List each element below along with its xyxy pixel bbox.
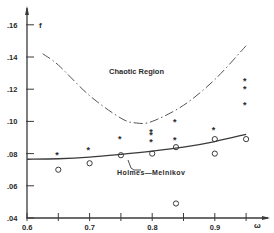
y-tick-label: .16 — [7, 21, 17, 30]
y-axis-label: f — [39, 21, 42, 30]
x-tick-label: 0.9 — [210, 223, 220, 232]
circle-marker-icon — [173, 201, 178, 206]
y-tick-label: .08 — [7, 150, 17, 159]
circle-marker-icon — [244, 137, 249, 142]
star-marker-icon: * — [173, 117, 177, 127]
y-tick-label: .04 — [7, 214, 18, 223]
holmes-melnikov-label: Holmes—Melnikov — [117, 169, 185, 176]
star-marker-icon: * — [173, 135, 177, 145]
chart-svg: .04.06.08.10.12.14.160.60.70.80.9fω*****… — [0, 0, 274, 233]
circle-marker-icon — [212, 151, 217, 156]
star-marker-icon: * — [87, 145, 91, 155]
star-marker-icon: * — [243, 100, 247, 110]
x-tick-label: 0.6 — [22, 223, 32, 232]
x-axis-label: ω — [254, 221, 261, 230]
circle-marker-icon — [87, 161, 92, 166]
circle-marker-icon — [56, 167, 61, 172]
circle-marker-icon — [173, 145, 178, 150]
y-tick-label: .12 — [7, 85, 17, 94]
star-marker-icon: * — [118, 134, 122, 144]
x-axis-arrow-icon — [262, 216, 270, 220]
x-tick-label: 0.7 — [85, 223, 95, 232]
chaotic-region-label: Chaotic Region — [109, 67, 164, 76]
y-axis-arrow-icon — [25, 6, 29, 15]
star-marker-icon: * — [243, 84, 247, 94]
x-tick-label: 0.8 — [147, 223, 157, 232]
chaotic-boundary-curve — [43, 46, 246, 124]
y-tick-label: .14 — [7, 53, 18, 62]
star-marker-icon: * — [149, 127, 153, 137]
star-marker-icon: * — [212, 125, 216, 135]
chart: .04.06.08.10.12.14.160.60.70.80.9fω*****… — [0, 0, 274, 233]
y-tick-label: .10 — [7, 117, 17, 126]
star-marker-icon: * — [55, 150, 59, 160]
y-tick-label: .06 — [7, 182, 17, 191]
